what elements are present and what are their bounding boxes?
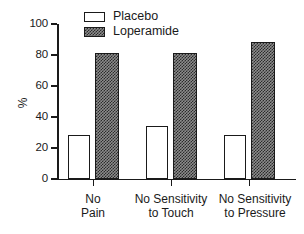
y-tick-label-0: 0	[0, 173, 48, 185]
y-tick-label-80: 80	[0, 49, 48, 61]
y-tick-label-20: 20	[0, 142, 48, 154]
bar-placebo-no-sensitivity-to-pressure	[224, 135, 246, 178]
bar-loperamide-no-pain	[95, 53, 119, 179]
y-tick-label-40: 40	[0, 111, 48, 123]
bar-loperamide-no-sensitivity-to-pressure	[251, 42, 275, 178]
legend-label-placebo: Placebo	[113, 10, 158, 23]
x-category-label-1: No Sensitivity to Touch	[129, 192, 213, 220]
x-category-label-2: No Sensitivity to Pressure	[209, 192, 301, 220]
y-tick-mark-40	[51, 116, 57, 117]
x-tick-mark-0	[93, 180, 94, 186]
x-tick-mark-1	[171, 180, 172, 186]
y-tick-mark-100	[51, 23, 57, 24]
chart-legend: Placebo Loperamide	[84, 9, 179, 39]
x-tick-mark-2	[249, 180, 250, 186]
bar-loperamide-no-sensitivity-to-touch	[173, 53, 197, 179]
y-tick-label-100: 100	[0, 18, 48, 30]
y-axis-title: %	[16, 98, 30, 109]
y-tick-mark-60	[51, 85, 57, 86]
y-tick-mark-80	[51, 54, 57, 55]
legend-swatch-placebo-icon	[84, 12, 105, 22]
legend-label-loperamide: Loperamide	[113, 25, 179, 38]
x-category-label-0: No Pain	[58, 192, 128, 220]
y-tick-mark-20	[51, 147, 57, 148]
legend-item-placebo: Placebo	[84, 9, 179, 24]
y-tick-mark-0	[51, 178, 57, 179]
bar-chart-figure: % 0 20 40 60 80 100 No Pain No Sensitivi…	[0, 0, 304, 234]
plot-area: % 0 20 40 60 80 100 No Pain No Sensitivi…	[0, 0, 304, 234]
legend-item-loperamide: Loperamide	[84, 24, 179, 39]
y-tick-label-60: 60	[0, 80, 48, 92]
legend-swatch-loperamide-icon	[84, 27, 105, 37]
bar-placebo-no-sensitivity-to-touch	[146, 126, 168, 179]
bar-placebo-no-pain	[68, 135, 90, 178]
y-axis-line	[57, 24, 59, 180]
